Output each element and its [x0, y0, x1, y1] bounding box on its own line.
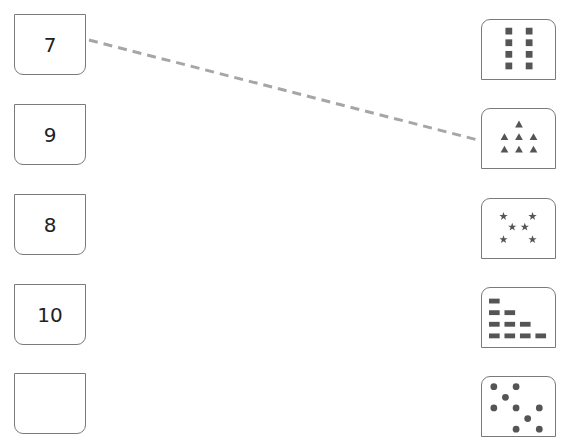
number-label: 8 — [44, 213, 57, 237]
number-card-7[interactable]: 7 — [14, 14, 86, 75]
dashed-connection-line — [89, 40, 478, 140]
triangles-group-icon — [482, 109, 555, 168]
picture-card-circles[interactable] — [481, 376, 556, 437]
picture-card-squares[interactable] — [481, 19, 556, 80]
picture-card-triangles[interactable] — [481, 108, 556, 169]
number-label: 7 — [44, 33, 57, 57]
rectangles-group-icon — [482, 288, 555, 347]
number-card-10[interactable]: 10 — [14, 284, 86, 345]
number-card-8[interactable]: 8 — [14, 194, 86, 255]
stars-group-icon — [482, 199, 555, 258]
number-card-empty[interactable] — [14, 373, 86, 434]
squares-group-icon — [482, 20, 555, 79]
number-label: 9 — [44, 123, 57, 147]
circles-group-icon — [482, 377, 555, 436]
picture-card-stars[interactable] — [481, 198, 556, 259]
number-label: 10 — [37, 303, 62, 327]
picture-card-rectangles[interactable] — [481, 287, 556, 348]
number-card-9[interactable]: 9 — [14, 104, 86, 165]
